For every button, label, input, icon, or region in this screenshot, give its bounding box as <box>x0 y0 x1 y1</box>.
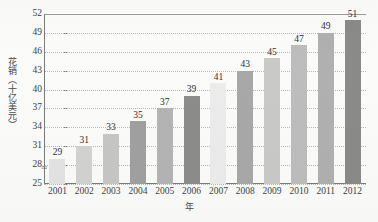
x-axis-title: 年 <box>0 200 378 213</box>
y-tick-label: 28 <box>24 160 42 170</box>
bar[interactable]: 43 <box>237 71 253 184</box>
y-axis-title: 花销（十亿美元） <box>4 28 20 158</box>
y-tick-label: 46 <box>24 47 42 57</box>
x-tick-label: 2005 <box>151 186 178 197</box>
x-tick-label: 2009 <box>259 186 286 197</box>
bar[interactable]: 35 <box>130 121 146 184</box>
x-tick-label: 2002 <box>71 186 98 197</box>
bar-value-label: 41 <box>214 72 224 82</box>
bar-value-label: 31 <box>79 135 89 145</box>
y-tick-label: 52 <box>24 9 42 19</box>
bar[interactable]: 51 <box>345 20 361 184</box>
bar[interactable]: 45 <box>264 58 280 184</box>
y-tick-label: 31 <box>24 141 42 151</box>
y-tick-label: 25 <box>24 179 42 189</box>
x-tick-label: 2008 <box>232 186 259 197</box>
bar[interactable]: 41 <box>210 83 226 184</box>
gridline <box>44 184 366 185</box>
bar-value-label: 43 <box>240 59 250 69</box>
bar[interactable]: 31 <box>76 146 92 184</box>
bar[interactable]: 39 <box>184 96 200 184</box>
x-tick-label: 2004 <box>125 186 152 197</box>
x-tick-label: 2003 <box>98 186 125 197</box>
bar-value-label: 47 <box>294 34 304 44</box>
x-tick-label: 2001 <box>44 186 71 197</box>
plot-area: 293133353739414345474951 ≈ <box>44 14 366 184</box>
axis-break-icon: ≈ <box>41 163 48 172</box>
bar-value-label: 29 <box>53 147 63 157</box>
bar[interactable]: 49 <box>318 33 334 184</box>
x-tick-label: 2011 <box>312 186 339 197</box>
y-axis-tick-labels: 25283134374043464952 <box>20 14 42 184</box>
bar[interactable]: 37 <box>157 108 173 184</box>
x-tick-label: 2007 <box>205 186 232 197</box>
x-tick-label: 2006 <box>178 186 205 197</box>
bar[interactable]: 47 <box>291 45 307 184</box>
bar[interactable]: 29 <box>49 159 65 184</box>
bar-chart: 花销（十亿美元） 25283134374043464952 2931333537… <box>0 0 378 222</box>
bar-value-label: 45 <box>267 47 277 57</box>
y-tick-label: 34 <box>24 122 42 132</box>
bar-value-label: 49 <box>321 21 331 31</box>
bar-value-label: 39 <box>187 84 197 94</box>
x-tick-label: 2010 <box>286 186 313 197</box>
bar-value-label: 35 <box>133 110 143 120</box>
y-tick-label: 37 <box>24 103 42 113</box>
x-axis-tick-labels: 2001200220032004200520062007200820092010… <box>44 186 366 200</box>
x-tick-label: 2012 <box>339 186 366 197</box>
bar-value-label: 51 <box>348 9 358 19</box>
y-tick-label: 43 <box>24 66 42 76</box>
bar-value-label: 37 <box>160 97 170 107</box>
bar-value-label: 33 <box>106 122 116 132</box>
y-tick-label: 40 <box>24 85 42 95</box>
bar[interactable]: 33 <box>103 134 119 184</box>
y-tick-label: 49 <box>24 28 42 38</box>
